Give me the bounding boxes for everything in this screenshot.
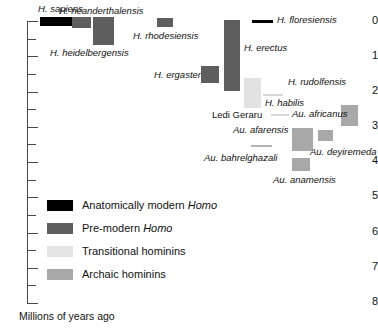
taxon-label-h-neanderthalensis: H. neanderthalensis [59, 5, 144, 16]
taxon-label-au-deyiremeda: Au. deyiremeda [310, 146, 377, 157]
y-axis-label-3: 3 [358, 120, 378, 131]
range-bar-au-deyiremeda [318, 130, 333, 141]
taxon-label-h-rudolfensis: H. rudolfensis [288, 76, 346, 87]
range-line-h-floresiensis [252, 20, 273, 23]
y-axis-tick-major-4 [27, 162, 38, 163]
taxon-label-h-habilis: H. habilis [265, 97, 304, 108]
y-axis-tick-major-6 [27, 233, 38, 234]
y-axis-caption: Millions of years ago [19, 310, 115, 322]
legend-label-archaic: Archaic hominins [82, 268, 166, 281]
taxon-label-h-rhodesiensis: H. rhodesiensis [133, 30, 198, 41]
legend-label-modern-plain: Anatomically modern [82, 199, 188, 211]
y-axis-tick-major-2 [27, 92, 38, 93]
y-axis-label-7: 7 [358, 261, 378, 272]
y-axis-tick-minor-7-5 [28, 285, 36, 286]
y-axis-label-1: 1 [358, 50, 378, 61]
taxon-label-h-floresiensis: H. floresiensis [277, 14, 337, 25]
taxon-label-au-anamensis: Au. anamensis [273, 174, 336, 185]
y-axis-tick-minor-1-5 [28, 74, 36, 75]
taxon-label-h-heidelbergensis: H. heidelbergensis [50, 47, 129, 58]
legend-swatch-archaic [47, 269, 73, 280]
legend-label-transitional: Transitional hominins [82, 245, 186, 258]
range-bar-h-sapiens [40, 17, 72, 26]
y-axis-tick-minor-6-5 [28, 250, 36, 251]
y-axis-label-0: 0 [358, 15, 378, 26]
range-bar-h-neanderthalensis [72, 17, 91, 28]
legend-item-archaic: Archaic hominins [47, 265, 217, 284]
range-bar-h-rhodesiensis [157, 18, 173, 27]
y-axis-tick-minor-4-5 [28, 180, 36, 181]
range-bar-au-anamensis [292, 158, 310, 171]
y-axis-label-5: 5 [358, 190, 378, 201]
range-line-ledi-geraru [271, 114, 289, 116]
legend-label-premodern-plain: Pre-modern [82, 222, 143, 234]
taxon-label-h-erectus: H. erectus [244, 42, 287, 53]
y-axis-tick-minor-3-5 [28, 144, 36, 145]
y-axis-tick-major-5 [27, 197, 38, 198]
legend-swatch-premodern [47, 223, 73, 234]
legend-swatch-modern [47, 200, 73, 211]
y-axis-label-8: 8 [358, 296, 378, 307]
y-axis-tick-major-3 [27, 127, 38, 128]
y-axis-tick-minor-0-5 [28, 39, 36, 40]
range-line-h-rudolfensis [263, 94, 283, 96]
legend-item-premodern: Pre-modern Homo [47, 219, 217, 238]
legend-label-premodern-italic: Homo [143, 222, 172, 234]
y-axis-tick-minor-2-5 [28, 109, 36, 110]
y-axis-label-2: 2 [358, 85, 378, 96]
range-line-au-bahrelghazali [251, 145, 272, 147]
legend-swatch-transitional [47, 246, 73, 257]
range-bar-h-ergaster [201, 66, 219, 83]
range-bar-h-habilis [244, 78, 261, 108]
hominin-timeline-chart: 0 1 2 3 4 5 6 7 8 Millions of years ago … [0, 0, 378, 332]
legend-label-modern-italic: Homo [188, 199, 217, 211]
taxon-label-h-ergaster: H. ergaster [154, 69, 201, 80]
taxon-label-au-bahrelghazali: Au. bahrelghazali [204, 152, 277, 163]
legend: Anatomically modern Homo Pre-modern Homo… [47, 196, 217, 288]
y-axis-tick-major-1 [27, 56, 38, 57]
y-axis-tick-major-0 [27, 21, 38, 22]
range-bar-h-erectus [224, 20, 240, 91]
y-axis-label-6: 6 [358, 226, 378, 237]
taxon-label-au-africanus: Au. africanus [292, 108, 347, 119]
y-axis-tick-major-8 [27, 303, 38, 304]
taxon-label-au-afarensis: Au. afarensis [233, 124, 288, 135]
y-axis-tick-major-7 [27, 268, 38, 269]
legend-label-modern: Anatomically modern Homo [82, 199, 217, 212]
legend-item-transitional: Transitional hominins [47, 242, 217, 261]
legend-item-modern: Anatomically modern Homo [47, 196, 217, 215]
legend-label-premodern: Pre-modern Homo [82, 222, 172, 235]
taxon-label-ledi-geraru: Ledi Geraru [212, 109, 262, 120]
y-axis-tick-minor-5-5 [28, 215, 36, 216]
range-bar-h-heidelbergensis [93, 17, 114, 45]
